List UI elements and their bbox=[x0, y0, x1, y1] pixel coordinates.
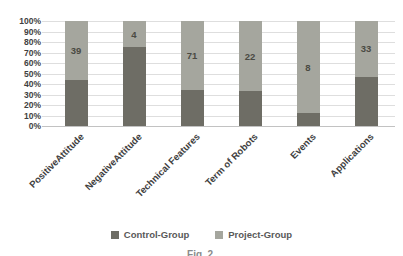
y-tick-label: 0% bbox=[0, 121, 41, 131]
y-tick-label: 10% bbox=[0, 111, 41, 121]
data-label: 8 bbox=[305, 62, 310, 73]
data-label: 4 bbox=[131, 29, 136, 40]
segment-control-group bbox=[65, 80, 88, 126]
segment-control-group bbox=[239, 91, 262, 126]
plot-area: 3947122833 bbox=[47, 21, 395, 126]
segment-control-group bbox=[355, 77, 378, 126]
legend-item-control-group: Control-Group bbox=[111, 229, 189, 240]
bar-technical-features: 71 bbox=[181, 21, 204, 126]
y-tick-label: 30% bbox=[0, 90, 41, 100]
y-tick-label: 20% bbox=[0, 100, 41, 110]
y-tick-label: 60% bbox=[0, 58, 41, 68]
gridline bbox=[42, 32, 395, 33]
gridline bbox=[42, 84, 395, 85]
y-tick-label: 100% bbox=[0, 16, 41, 26]
gridline bbox=[42, 63, 395, 64]
bar-events: 8 bbox=[297, 21, 320, 126]
bar-term-of-robots: 22 bbox=[239, 21, 262, 126]
gridline bbox=[42, 42, 395, 43]
y-tick-label: 50% bbox=[0, 69, 41, 79]
y-tick-label: 40% bbox=[0, 79, 41, 89]
segment-project-group: 4 bbox=[123, 21, 146, 47]
bar-applications: 33 bbox=[355, 21, 378, 126]
legend-item-project-group: Project-Group bbox=[215, 229, 292, 240]
gridline bbox=[42, 74, 395, 75]
y-tick-label: 70% bbox=[0, 48, 41, 58]
segment-project-group: 71 bbox=[181, 21, 204, 90]
bar-negativeattitude: 4 bbox=[123, 21, 146, 126]
gridline bbox=[42, 95, 395, 96]
data-label: 71 bbox=[187, 50, 198, 61]
segment-control-group bbox=[181, 90, 204, 126]
y-axis-labels: 0%10%20%30%40%50%60%70%80%90%100% bbox=[0, 0, 43, 140]
y-tick-label: 80% bbox=[0, 37, 41, 47]
segment-project-group: 22 bbox=[239, 21, 262, 91]
segment-project-group: 39 bbox=[65, 21, 88, 80]
gridline bbox=[42, 53, 395, 54]
gridline bbox=[42, 105, 395, 106]
x-tick-label: NegativeAttitude bbox=[53, 131, 144, 222]
bar-positiveattitude: 39 bbox=[65, 21, 88, 126]
x-tick-label: Technical Features bbox=[111, 131, 202, 222]
y-tick-label: 90% bbox=[0, 27, 41, 37]
legend: Control-GroupProject-Group bbox=[0, 229, 403, 240]
segment-project-group: 8 bbox=[297, 21, 320, 113]
segment-control-group bbox=[297, 113, 320, 126]
legend-swatch bbox=[215, 231, 223, 239]
legend-label: Control-Group bbox=[124, 229, 189, 240]
x-axis-line bbox=[42, 126, 395, 127]
chart: 0%10%20%30%40%50%60%70%80%90%100% 394712… bbox=[0, 0, 403, 256]
legend-label: Project-Group bbox=[228, 229, 292, 240]
gridline bbox=[42, 21, 395, 22]
legend-swatch bbox=[111, 231, 119, 239]
x-tick-label: Term of Robots bbox=[169, 131, 260, 222]
segment-control-group bbox=[123, 47, 146, 126]
segment-project-group: 33 bbox=[355, 21, 378, 77]
data-label: 22 bbox=[245, 51, 256, 62]
x-tick-label: Events bbox=[227, 131, 318, 222]
x-tick-label: PositiveAttitude bbox=[0, 131, 86, 222]
gridline bbox=[42, 116, 395, 117]
x-tick-label: Applications bbox=[285, 131, 376, 222]
figure-caption: Fig. 2. bbox=[0, 249, 403, 256]
data-label: 39 bbox=[71, 45, 82, 56]
data-label: 33 bbox=[361, 43, 372, 54]
